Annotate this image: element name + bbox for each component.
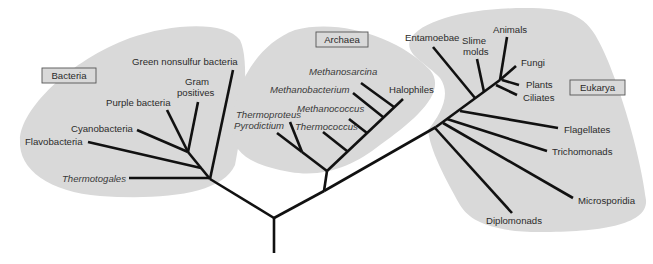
taxon-label-flagellates: Flagellates bbox=[564, 124, 611, 135]
taxon-label-methanosarcina: Methanosarcina bbox=[309, 66, 377, 77]
taxon-label-molds: molds bbox=[463, 46, 489, 57]
taxon-label-gram: Gram bbox=[185, 76, 209, 87]
taxon-label-positives: positives bbox=[177, 87, 215, 98]
taxon-label-ciliates: Ciliates bbox=[523, 92, 555, 103]
phylogenetic-tree-diagram: Green nonsulfur bacteriaGrampositivesPur… bbox=[0, 0, 653, 264]
bacteria-domain-label: Bacteria bbox=[51, 70, 87, 81]
taxon-label-microsporidia: Microsporidia bbox=[578, 195, 636, 206]
taxon-label-diplomonads: Diplomonads bbox=[486, 215, 542, 226]
taxon-label-methanobacterium: Methanobacterium bbox=[270, 84, 349, 95]
taxon-label-cyanobacteria: Cyanobacteria bbox=[71, 123, 134, 134]
taxon-label-trichomonads: Trichomonads bbox=[552, 146, 613, 157]
taxon-label-purple-bacteria: Purple bacteria bbox=[106, 97, 171, 108]
taxon-label-flavobacteria: Flavobacteria bbox=[25, 136, 83, 147]
taxon-label-thermoproteus: Thermoproteus bbox=[236, 109, 301, 120]
archaea-region bbox=[232, 26, 435, 173]
taxon-label-plants: Plants bbox=[526, 79, 553, 90]
taxon-label-pyrodictium: Pyrodictium bbox=[234, 120, 284, 131]
eukarya-domain-label: Eukarya bbox=[580, 82, 616, 93]
archaea-stem bbox=[324, 171, 327, 191]
eukarya-domain-box: Eukarya bbox=[570, 80, 625, 95]
taxon-label-thermococcus: Thermococcus bbox=[295, 121, 358, 132]
taxon-label-green-nonsulfur-bacteria: Green nonsulfur bacteria bbox=[132, 56, 238, 67]
taxon-label-entamoebae: Entamoebae bbox=[405, 32, 459, 43]
taxon-label-fungi: Fungi bbox=[521, 57, 545, 68]
archaea-domain-box: Archaea bbox=[316, 32, 368, 47]
taxon-label-methanococcus: Methanococcus bbox=[297, 103, 364, 114]
root-to-archaea-eukarya bbox=[274, 191, 324, 218]
taxon-label-thermotogales: Thermotogales bbox=[62, 173, 126, 184]
bacteria-domain-box: Bacteria bbox=[42, 68, 96, 83]
archaea-domain-label: Archaea bbox=[324, 34, 360, 45]
taxon-label-slime: Slime bbox=[462, 35, 486, 46]
root-to-bacteria bbox=[210, 179, 274, 218]
taxon-label-halophiles: Halophiles bbox=[389, 84, 434, 95]
taxon-label-animals: Animals bbox=[493, 24, 527, 35]
